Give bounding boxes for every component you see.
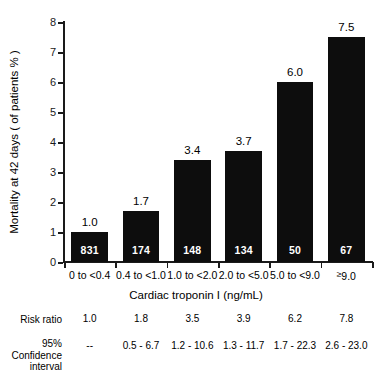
y-axis-tick-label: 8 — [50, 17, 56, 28]
risk-ratio-cell: 3.9 — [237, 314, 251, 324]
y-axis-tick — [58, 232, 63, 234]
x-axis-category-label: 0 to <0.4 — [69, 270, 110, 281]
bar: 174 — [123, 211, 160, 262]
x-axis-category-label: ≥9.0 — [337, 270, 356, 282]
x-axis-category-label: 1.0 to <2.0 — [167, 270, 217, 281]
y-axis-title: Mortality at 42 days ( of patients % ) — [8, 50, 20, 233]
x-axis-tick — [218, 262, 220, 268]
bar: 831 — [71, 232, 108, 262]
y-axis-tick-label: 6 — [50, 77, 56, 88]
confidence-interval-cell: 0.5 - 6.7 — [123, 341, 160, 351]
y-axis-tick — [58, 22, 63, 24]
bar: 50 — [277, 82, 314, 262]
y-axis-tick — [58, 142, 63, 144]
bar-value-label: 7.5 — [338, 22, 354, 34]
x-axis-category-label: 0.4 to <1.0 — [116, 270, 166, 281]
confidence-interval-cell: 1.2 - 10.6 — [171, 341, 213, 351]
confidence-interval-cell: 1.3 - 11.7 — [223, 341, 265, 351]
y-axis-tick — [58, 262, 63, 264]
risk-ratio-cell: 3.5 — [185, 314, 199, 324]
bar-value-label: 3.4 — [184, 145, 200, 157]
y-axis-tick — [58, 52, 63, 54]
y-axis-tick-label: 1 — [50, 227, 56, 238]
bar-value-label: 6.0 — [287, 67, 303, 79]
risk-ratio-cell: 1.8 — [134, 314, 148, 324]
bar-patient-count: 174 — [132, 244, 150, 256]
risk-ratio-cell: 7.8 — [339, 314, 353, 324]
confidence-interval-row-label: 95%Confidenceinterval — [0, 338, 62, 373]
bar-patient-count: 67 — [340, 244, 352, 256]
x-axis-tick — [115, 262, 117, 268]
risk-ratio-cell: 1.0 — [83, 314, 97, 324]
bar-patient-count: 50 — [289, 244, 301, 256]
confidence-interval-label-line: interval — [0, 361, 62, 373]
bar: 134 — [225, 151, 262, 262]
y-axis-tick-label: 7 — [50, 47, 56, 58]
confidence-interval-label-line: Confidence — [0, 350, 62, 362]
x-axis-category-label: 2.0 to <5.0 — [219, 270, 269, 281]
y-axis-tick-label: 0 — [50, 257, 56, 268]
confidence-interval-cell: 1.7 - 22.3 — [274, 341, 316, 351]
bar-patient-count: 134 — [235, 244, 253, 256]
bar: 148 — [174, 160, 211, 262]
plot-area: 0123456788311.01741.71483.41343.7506.067… — [64, 22, 372, 262]
x-axis-tick — [167, 262, 169, 268]
bar-value-label: 3.7 — [236, 136, 252, 148]
y-axis-tick — [58, 112, 63, 114]
risk-ratio-row-label: Risk ratio — [0, 314, 62, 326]
risk-ratio-cell: 6.2 — [288, 314, 302, 324]
y-axis-tick-label: 5 — [50, 107, 56, 118]
x-axis-tick — [64, 262, 66, 268]
y-axis-tick-label: 4 — [50, 137, 56, 148]
mortality-bar-chart-figure: Mortality at 42 days ( of patients % ) 0… — [0, 0, 392, 381]
bar-patient-count: 148 — [183, 244, 201, 256]
bar-value-label: 1.7 — [133, 196, 149, 208]
y-axis-tick — [58, 82, 63, 84]
confidence-interval-cell: -- — [86, 341, 93, 351]
confidence-interval-cell: 2.6 - 23.0 — [325, 341, 367, 351]
x-axis-tick — [372, 262, 374, 268]
x-axis-category-label: 5.0 to <9.0 — [270, 270, 320, 281]
x-axis-tick — [321, 262, 323, 268]
bar-patient-count: 831 — [81, 244, 99, 256]
x-axis-tick — [269, 262, 271, 268]
y-axis-tick — [58, 172, 63, 174]
bar-value-label: 1.0 — [82, 217, 98, 229]
x-axis-title: Cardiac troponin I (ng/mL) — [0, 289, 392, 301]
y-axis-tick-label: 3 — [50, 167, 56, 178]
confidence-interval-label-line: 95% — [0, 338, 62, 350]
y-axis-tick-label: 2 — [50, 197, 56, 208]
bar: 67 — [328, 37, 365, 262]
y-axis-tick — [58, 202, 63, 204]
